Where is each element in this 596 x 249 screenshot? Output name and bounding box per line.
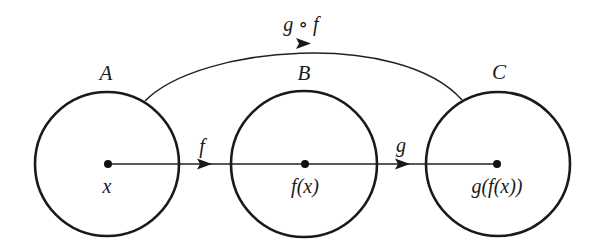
set-label-B: B [298,61,311,85]
composition-diagram: g ∘ f A B C f g x f(x) g(f(x)) [0,0,596,249]
arrowhead-composition-icon [296,38,311,49]
point-label-x: x [102,175,112,197]
label-g: g [396,134,406,157]
set-label-A: A [98,61,113,85]
set-label-C: C [492,60,507,84]
point-label-g-f-x: g(f(x)) [471,175,522,198]
set-B: B [231,61,377,237]
point-f-x [301,160,309,168]
point-label-f-x: f(x) [291,175,319,198]
label-f: f [199,135,207,158]
point-g-f-x [493,160,501,168]
label-composition: g ∘ f [283,13,321,36]
point-x [104,160,112,168]
set-A: A [35,61,179,236]
